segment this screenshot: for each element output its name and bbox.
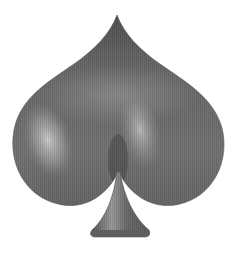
spade-body [0, 0, 242, 255]
canvas [0, 0, 242, 255]
spade-icon [0, 0, 242, 255]
